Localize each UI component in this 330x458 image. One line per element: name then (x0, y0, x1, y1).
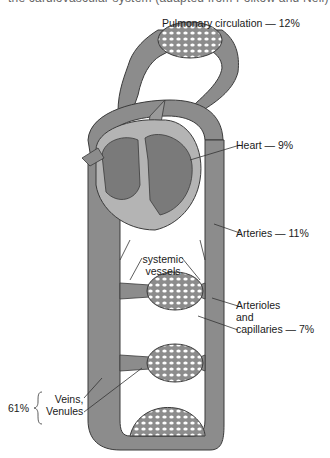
label-systemic-line2: vessels (138, 265, 188, 277)
label-pulmonary-circulation: Pulmonary circulation — 12% (162, 17, 300, 29)
capillary-bed-2 (147, 344, 203, 382)
capillary-bed-1 (147, 272, 203, 310)
label-veins-line2: Venules (46, 405, 83, 417)
label-heart: Heart — 9% (236, 139, 293, 151)
label-arterioles-line1: Arterioles (236, 299, 314, 311)
label-arterioles-line2: and (236, 311, 314, 323)
label-arterioles-capillaries: Arterioles and capillaries — 7% (236, 299, 314, 335)
label-veins-venules: Veins, Venules (46, 393, 83, 417)
label-arteries: Arteries — 11% (236, 227, 309, 239)
label-veins-percent: 61% (8, 402, 29, 414)
label-arterioles-line3: capillaries — 7% (236, 323, 314, 335)
capillary-beds (120, 272, 205, 436)
capillary-bed-3 (130, 407, 205, 436)
pulmonary-circuit (118, 22, 238, 112)
label-systemic-line1: systemic (138, 253, 188, 265)
label-systemic-vessels: systemic vessels (138, 253, 188, 277)
label-veins-line1: Veins, (46, 393, 83, 405)
